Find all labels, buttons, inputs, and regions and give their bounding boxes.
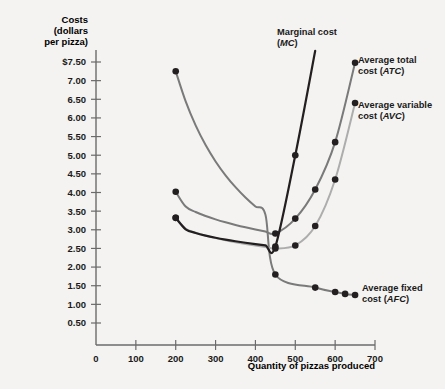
- data-point-afc-650: [352, 292, 359, 299]
- y-tick-label: 6.00: [68, 112, 87, 123]
- y-tick-label: 6.50: [68, 94, 87, 105]
- y-axis-ticks: 0.501.001.502.002.503.003.504.004.505.00…: [62, 56, 101, 328]
- curve-mc: [176, 51, 315, 253]
- avc-label-line-1: Average variable: [358, 100, 432, 110]
- data-point-atc-500: [292, 215, 299, 222]
- annotation-average-total-cost: Average total cost (ATC): [358, 55, 417, 76]
- mc-label-line-2: (MC): [277, 38, 298, 48]
- curve-paths: [176, 51, 355, 295]
- y-tick-label: 2.50: [68, 243, 87, 254]
- data-point-afc-550: [312, 284, 319, 291]
- curve-avc: [176, 103, 355, 248]
- curve-afc: [176, 71, 355, 295]
- curve-atc: [176, 63, 355, 234]
- data-point-afc-600: [332, 289, 339, 296]
- y-tick-label: 3.50: [68, 206, 87, 217]
- data-point-afc-625: [342, 291, 349, 298]
- atc-label-line-2: cost (ATC): [358, 66, 404, 76]
- data-point-afc-450: [272, 271, 279, 278]
- y-axis-title-line-1: Costs: [62, 14, 88, 25]
- y-tick-label: 5.00: [68, 150, 87, 161]
- y-tick-label: 7.00: [68, 75, 87, 86]
- annotation-average-variable-cost: Average variable cost (AVC): [358, 100, 432, 121]
- cost-curves-chart: Costs (dollars per pizza) 0.501.001.502.…: [0, 0, 445, 389]
- y-tick-label: 4.00: [68, 187, 87, 198]
- y-tick-label: 0.50: [68, 317, 87, 328]
- y-tick-label: 3.00: [68, 224, 87, 235]
- data-point-afc-200: [172, 68, 179, 75]
- data-point-avc-600: [332, 176, 339, 183]
- y-tick-label: $7.50: [62, 56, 86, 67]
- x-tick-label: 300: [208, 353, 224, 364]
- afc-label-line-2: cost (AFC): [362, 294, 409, 304]
- data-point-atc-450: [272, 230, 279, 237]
- data-point-avc-550: [312, 223, 319, 230]
- data-point-mc-200: [172, 215, 179, 222]
- y-tick-label: 4.50: [68, 168, 87, 179]
- y-axis-title-line-2: (dollars: [54, 25, 88, 36]
- data-point-avc-500: [292, 242, 299, 249]
- data-point-markers: [172, 59, 358, 298]
- data-point-atc-200: [172, 188, 179, 195]
- afc-label-line-1: Average fixed: [362, 283, 423, 293]
- annotation-average-fixed-cost: Average fixed cost (AFC): [362, 283, 423, 304]
- x-tick-label: 200: [168, 353, 184, 364]
- y-tick-label: 1.50: [68, 280, 87, 291]
- data-point-mc-450: [272, 243, 279, 250]
- chart-svg: Costs (dollars per pizza) 0.501.001.502.…: [0, 0, 445, 389]
- data-point-atc-600: [332, 139, 339, 146]
- y-tick-label: 5.50: [68, 131, 87, 142]
- x-tick-label: 0: [93, 353, 98, 364]
- annotation-marginal-cost: Marginal cost (MC): [277, 27, 337, 48]
- data-point-mc-500: [292, 152, 299, 159]
- x-tick-label: 100: [128, 353, 144, 364]
- x-axis-title: Quantity of pizzas produced: [248, 360, 375, 371]
- avc-label-line-2: cost (AVC): [358, 111, 405, 121]
- y-tick-label: 1.00: [68, 299, 87, 310]
- y-tick-label: 2.00: [68, 261, 87, 272]
- mc-label-line-1: Marginal cost: [277, 27, 337, 37]
- data-point-atc-550: [312, 186, 319, 193]
- atc-label-line-1: Average total: [358, 55, 417, 65]
- y-axis-title-line-3: per pizza): [44, 36, 88, 47]
